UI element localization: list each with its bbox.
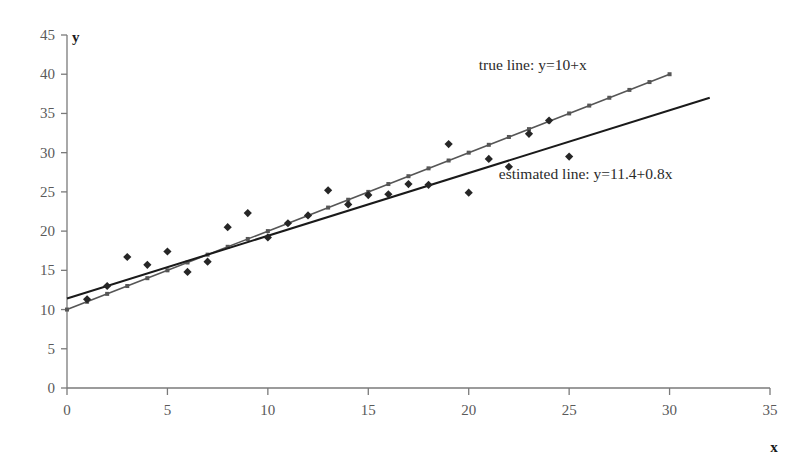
x-axis-tick-label: 20 (461, 402, 476, 418)
y-axis-tick-label: 30 (40, 145, 55, 161)
series-line-marker (406, 174, 410, 178)
series-line-marker (587, 104, 591, 108)
x-axis-tick-label: 0 (63, 402, 71, 418)
series-line-marker (487, 143, 491, 147)
series-line-marker (467, 151, 471, 155)
y-axis-tick-label: 10 (40, 302, 55, 318)
y-axis-tick-label: 15 (40, 262, 55, 278)
series-line-marker (266, 229, 270, 233)
x-axis-tick-label: 25 (562, 402, 577, 418)
x-axis-tick-label: 30 (662, 402, 677, 418)
y-axis-tick-label: 20 (40, 223, 55, 239)
series-line-marker (427, 166, 431, 170)
series-line-marker (627, 88, 631, 92)
series-line-marker (447, 159, 451, 163)
y-axis-tick-label: 40 (40, 66, 55, 82)
x-axis-tick-label: 15 (361, 402, 376, 418)
series-line-marker (145, 276, 149, 280)
x-axis-tick-label: 5 (164, 402, 172, 418)
scatter-plot-svg: 051015202530354045 05101520253035 true l… (0, 0, 802, 461)
series-line-marker (507, 135, 511, 139)
y-axis-tick-label: 35 (40, 105, 55, 121)
x-axis-tick-label: 10 (260, 402, 275, 418)
y-axis-tick-label: 5 (48, 341, 56, 357)
y-axis-tick-label: 25 (40, 184, 55, 200)
series-line-marker (165, 268, 169, 272)
x-axis-tick-label: 35 (763, 402, 778, 418)
y-axis-tick-label: 0 (48, 380, 56, 396)
series-line-marker (567, 111, 571, 115)
true-line-label: true line: y=10+x (479, 56, 587, 73)
series-line-marker (386, 182, 390, 186)
series-line-marker (607, 96, 611, 100)
series-line-marker (326, 206, 330, 210)
series-line-marker (647, 80, 651, 84)
y-axis-title: y (72, 29, 80, 45)
y-axis-tick-label: 45 (40, 27, 55, 43)
x-axis-title: x (770, 439, 778, 455)
series-line-marker (668, 72, 672, 76)
series-line-marker (105, 292, 109, 296)
estimated-line-label: estimated line: y=11.4+0.8x (499, 165, 673, 182)
series-line-marker (65, 308, 69, 312)
series-line-marker (125, 284, 129, 288)
series-line-marker (246, 237, 250, 241)
chart-background (0, 0, 802, 461)
chart-container: 051015202530354045 05101520253035 true l… (0, 0, 802, 461)
